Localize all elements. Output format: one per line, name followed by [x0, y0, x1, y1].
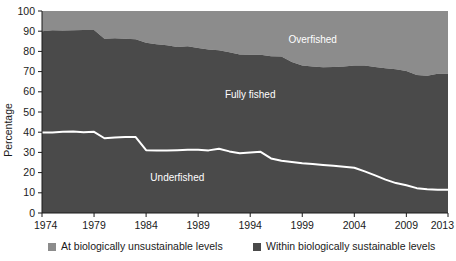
legend-swatch	[48, 243, 56, 251]
x-tick-label: 2009	[395, 219, 419, 231]
y-tick-label: 80	[23, 45, 35, 57]
y-tick-label: 40	[23, 126, 35, 138]
series-annotation-fully-fished: Fully fished	[225, 89, 276, 100]
chart-svg: 0102030405060708090100 19741979198419891…	[0, 0, 456, 261]
y-tick-label: 0	[29, 207, 35, 219]
y-tick-label: 100	[17, 5, 35, 17]
chart-plot-area: 0102030405060708090100 19741979198419891…	[0, 0, 456, 261]
fisheries-stacked-area-figure: 0102030405060708090100 19741979198419891…	[0, 0, 456, 261]
legend-label: At biologically unsustainable levels	[61, 240, 223, 252]
legend-swatch	[253, 243, 261, 251]
legend-label: Within biologically sustainable levels	[266, 240, 435, 252]
x-tick-label: 2004	[343, 219, 367, 231]
y-tick-label: 60	[23, 85, 35, 97]
x-tick-label: 1979	[82, 219, 106, 231]
area-series-group	[42, 11, 448, 213]
y-tick-label: 50	[23, 106, 35, 118]
x-tick-label: 2013	[431, 219, 455, 231]
x-tick-label: 1984	[134, 219, 158, 231]
y-tick-label: 70	[23, 65, 35, 77]
x-tick-label: 1974	[34, 219, 58, 231]
series-annotation-overfished: Overfished	[288, 34, 336, 45]
y-tick-label: 10	[23, 186, 35, 198]
y-tick-label: 30	[23, 146, 35, 158]
series-annotation-underfished: Underfished	[150, 172, 204, 183]
x-tick-label: 1989	[186, 219, 210, 231]
y-tick-label: 20	[23, 166, 35, 178]
x-tick-label: 1994	[239, 219, 263, 231]
y-axis-title: Percentage	[2, 103, 14, 157]
x-tick-label: 1999	[291, 219, 315, 231]
y-tick-label: 90	[23, 25, 35, 37]
